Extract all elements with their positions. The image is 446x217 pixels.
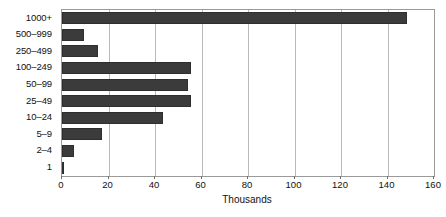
x-axis-title: Thousands (61, 195, 433, 205)
bar (62, 12, 407, 24)
y-axis-tick-label: 500–999 (0, 26, 57, 43)
bar (62, 29, 84, 41)
x-axis-tick-label: 0 (58, 180, 63, 190)
y-axis-tick-label: 5–9 (0, 125, 57, 142)
plot-area (61, 9, 435, 177)
bar (62, 128, 102, 140)
x-axis-ticks: 020406080100120140160 (61, 176, 435, 194)
y-axis-tick-label: 25–49 (0, 92, 57, 109)
y-axis-tick-label: 100–249 (0, 59, 57, 76)
bar-row (62, 27, 434, 44)
bar (62, 45, 98, 57)
bar-row (62, 126, 434, 143)
y-axis-tick-label: 10–24 (0, 109, 57, 126)
bar (62, 79, 188, 91)
x-axis-tick-label: 100 (286, 180, 302, 190)
bar-row (62, 10, 434, 27)
bar-row (62, 143, 434, 160)
y-axis-tick-label: 50–99 (0, 75, 57, 92)
bar (62, 62, 191, 74)
x-axis-tick-label: 80 (242, 180, 253, 190)
bar-row (62, 76, 434, 93)
x-axis-tick-label: 160 (425, 180, 441, 190)
y-axis-tick-label: 2–4 (0, 142, 57, 159)
y-axis-tick-label: 250–499 (0, 42, 57, 59)
y-axis-category-labels: 1000+500–999250–499100–24950–9925–4910–2… (0, 9, 57, 175)
bar-row (62, 60, 434, 77)
bar-row (62, 159, 434, 176)
bar-row (62, 93, 434, 110)
bar (62, 112, 163, 124)
y-axis-tick-label: 1000+ (0, 9, 57, 26)
bar (62, 95, 191, 107)
x-axis-tick-label: 60 (195, 180, 206, 190)
x-axis-tick-label: 40 (149, 180, 160, 190)
x-axis-tick-label: 120 (332, 180, 348, 190)
bar-row (62, 110, 434, 127)
bar (62, 145, 74, 157)
bar-row (62, 43, 434, 60)
x-axis-tick-label: 20 (102, 180, 113, 190)
bar (62, 162, 64, 174)
bar-chart: 1000+500–999250–499100–24950–9925–4910–2… (0, 0, 446, 217)
y-axis-tick-label: 1 (0, 158, 57, 175)
bar-series (62, 10, 434, 176)
x-axis-tick-label: 140 (379, 180, 395, 190)
